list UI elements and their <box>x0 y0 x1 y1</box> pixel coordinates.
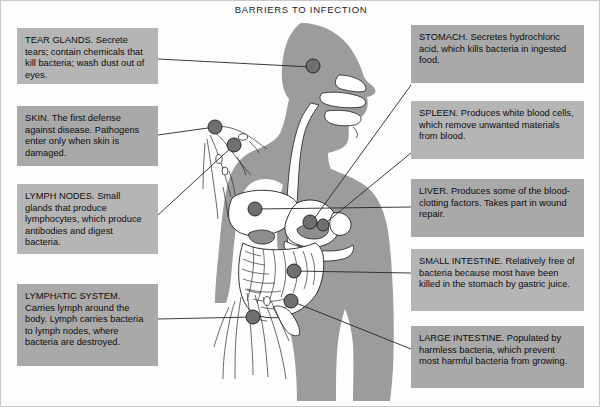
abdominal-organs <box>229 190 354 336</box>
body-silhouette <box>215 23 394 401</box>
leader-tear-glands <box>158 59 311 67</box>
marker-tear-glands <box>306 59 320 73</box>
leader-skin <box>158 127 215 135</box>
leader-lines <box>158 59 411 349</box>
callout-spleen: SPLEEN. Produces white blood cells, whic… <box>411 101 584 159</box>
marker-liver <box>248 202 262 216</box>
callout-tear-glands: TEAR GLANDS. Secrete tears; contain chem… <box>17 28 158 84</box>
leader-spleen <box>323 153 411 225</box>
marker-skin <box>208 120 222 134</box>
callout-skin: SKIN. The first defense against disease.… <box>17 106 158 166</box>
marker-stomach <box>303 215 317 229</box>
marker-small-intestine <box>287 264 301 278</box>
callout-lymphatic-system: LYMPHATIC SYSTEM. Carries lymph around t… <box>17 284 158 366</box>
callout-stomach: STOMACH. Secretes hydrochloric acid, whi… <box>411 25 584 83</box>
diagram-title: BARRIERS TO INFECTION <box>1 4 600 15</box>
anatomy-markers <box>208 59 329 324</box>
barriers-to-infection-diagram: BARRIERS TO INFECTION <box>0 0 600 407</box>
leader-small-intestine <box>294 271 411 273</box>
leader-liver <box>255 207 411 209</box>
leader-lymphatic <box>158 317 253 319</box>
marker-lymphatic <box>246 310 260 324</box>
callout-small-intestine: SMALL INTESTINE. Relatively free of bact… <box>411 249 584 311</box>
callout-lymph-nodes: LYMPH NODES. Small glands that produce l… <box>17 184 158 254</box>
marker-spleen <box>317 219 329 231</box>
marker-large-intestine <box>284 294 298 308</box>
callout-liver: LIVER. Produces some of the blood-clotti… <box>411 179 584 237</box>
leader-lymph-nodes <box>158 145 234 215</box>
lymphatic-vessels <box>203 126 289 379</box>
marker-lymph-nodes <box>227 138 241 152</box>
leader-stomach <box>311 85 411 223</box>
callout-large-intestine: LARGE INTESTINE. Populated by harmless b… <box>411 326 584 388</box>
leader-large-intestine <box>291 301 411 349</box>
airway-and-throat <box>287 75 366 259</box>
